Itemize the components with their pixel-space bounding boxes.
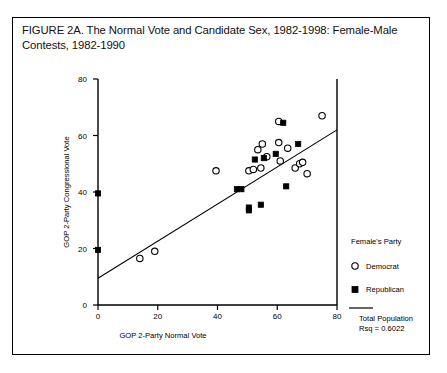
data-point-republican: [258, 202, 263, 207]
data-point-republican: [246, 205, 251, 210]
y-tick-label: 80: [78, 75, 87, 84]
x-axis-title: GOP 2-Party Normal Vote: [119, 331, 206, 340]
data-point-democrat: [319, 113, 325, 119]
data-point-democrat: [259, 141, 265, 147]
data-point-democrat: [152, 248, 158, 254]
data-point-democrat: [255, 146, 261, 152]
x-tick-label: 80: [333, 312, 342, 321]
data-point-democrat: [285, 145, 291, 151]
y-axis-tick-labels: 80 60 40 20 0: [78, 75, 87, 310]
data-point-democrat: [299, 159, 305, 165]
legend-democrat-label: Democrat: [366, 262, 400, 271]
y-tick-label: 60: [78, 132, 87, 141]
data-point-republican: [284, 184, 289, 189]
x-tick-label: 60: [273, 312, 282, 321]
data-point-republican: [281, 120, 286, 125]
legend-heading: Female's Party: [351, 237, 402, 246]
x-axis-ticks: [98, 305, 337, 310]
data-point-democrat: [304, 170, 310, 176]
legend: Female's Party Democrat Republican Total…: [349, 237, 413, 333]
scatter-plot-svg: 80 60 40 20 0 0 20 40 60 80 GOP 2-Party …: [13, 18, 431, 356]
data-point-republican: [252, 157, 257, 162]
plot-frame: [98, 79, 337, 305]
legend-republican-marker: [352, 287, 358, 293]
data-point-democrat: [276, 139, 282, 145]
axis-lines: [98, 79, 337, 305]
data-point-republican: [296, 141, 301, 146]
legend-fit-label-line2: Rsq = 0.6022: [359, 324, 404, 333]
x-tick-label: 40: [213, 312, 222, 321]
data-point-republican: [273, 151, 278, 156]
series-democrat-points: [137, 113, 326, 262]
data-point-republican: [95, 191, 100, 196]
y-tick-label: 0: [83, 301, 88, 310]
data-point-democrat: [137, 255, 143, 261]
data-point-democrat: [258, 165, 264, 171]
regression-fit-line: [98, 130, 337, 278]
series-republican-points: [95, 120, 300, 252]
legend-fit-label-line1: Total Population: [359, 314, 413, 323]
figure-card: FIGURE 2A. The Normal Vote and Candidate…: [12, 17, 430, 355]
legend-democrat-marker: [352, 263, 358, 269]
data-point-democrat: [250, 166, 256, 172]
legend-republican-label: Republican: [366, 285, 404, 294]
x-tick-label: 20: [153, 312, 162, 321]
y-tick-label: 20: [78, 245, 87, 254]
data-point-democrat: [213, 168, 219, 174]
data-point-democrat: [277, 158, 283, 164]
data-point-republican: [261, 156, 266, 161]
data-point-republican: [95, 247, 100, 252]
data-point-republican: [239, 187, 244, 192]
y-axis-title: GOP 2-Party Congressional Vote: [62, 136, 71, 247]
x-tick-label: 0: [96, 312, 101, 321]
y-tick-label: 40: [78, 188, 87, 197]
x-axis-tick-labels: 0 20 40 60 80: [96, 312, 342, 321]
plot-area: 80 60 40 20 0 0 20 40 60 80 GOP 2-Party …: [13, 18, 431, 356]
